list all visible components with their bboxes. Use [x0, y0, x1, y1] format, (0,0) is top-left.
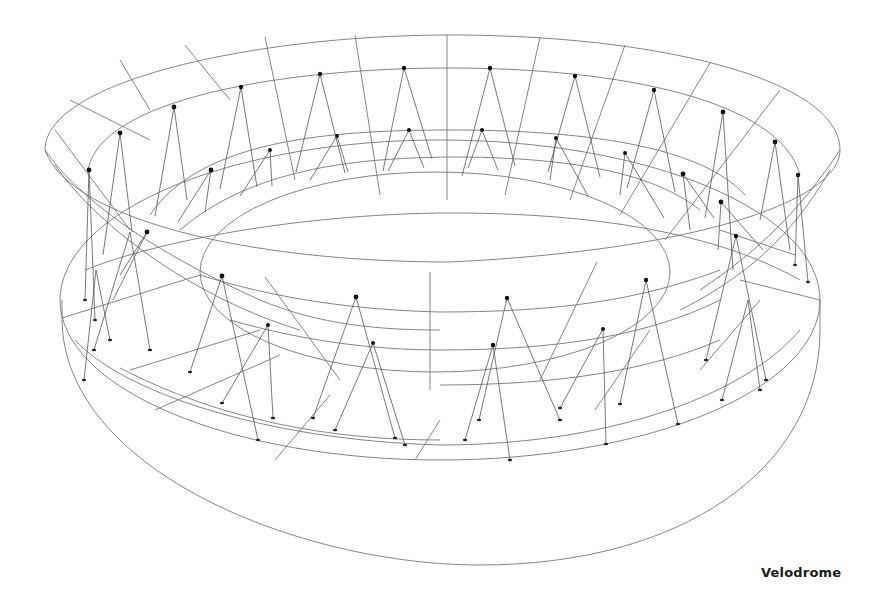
strut-feet [82, 264, 810, 462]
velodrome-drawing [0, 0, 890, 610]
strut-nodes [87, 66, 801, 347]
drawing-caption: Velodrome [761, 565, 841, 580]
base-drum [60, 140, 820, 565]
roof-bowl [45, 35, 840, 460]
struts [84, 68, 808, 460]
